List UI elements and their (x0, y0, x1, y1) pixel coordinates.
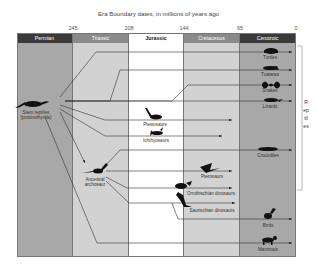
lizard-icon (264, 98, 283, 102)
stem-reptile-icon (24, 101, 42, 107)
label-ornithischian: Ornithischian dinosaurs (187, 191, 235, 196)
plesiosaur-icon (145, 108, 162, 120)
label-tuataras: Tuataras (261, 72, 279, 77)
turtle-icon (264, 48, 278, 54)
label-mammals: Mammals (258, 247, 278, 252)
ichthyosaur-icon (150, 127, 163, 136)
label-birds: Birds (263, 223, 273, 228)
label-saurischian: Saurischian dinosaurs (189, 208, 234, 213)
label-ichthyosaurs: Ichthyosaurs (143, 138, 169, 143)
crocodile-icon (258, 147, 278, 151)
label-stem-reptiles: Stem reptiles (protorothyrids) (20, 110, 51, 120)
label-reptiles: Reptiles (303, 98, 309, 130)
mammal-icon (262, 236, 277, 245)
animal-silhouettes (0, 0, 317, 274)
archosaur-icon (82, 163, 108, 174)
label-turtles: Turtles (263, 55, 277, 60)
pterosaur-icon (200, 163, 220, 173)
label-pterosaurs: Pterosaurs (201, 174, 223, 179)
label-ancestral-archosaur: Ancestral archosaur (85, 177, 105, 187)
label-plesiosaurs: Plesiosaurs (143, 122, 167, 127)
reptiles-bracket (297, 46, 302, 190)
label-crocodiles: Crocodiles (257, 153, 279, 158)
tuatara-icon (262, 66, 279, 70)
label-lizards: Lizards (263, 104, 278, 109)
ornithischian-icon (175, 181, 192, 189)
label-snakes: Snakes (262, 88, 277, 93)
bird-icon (264, 208, 276, 219)
